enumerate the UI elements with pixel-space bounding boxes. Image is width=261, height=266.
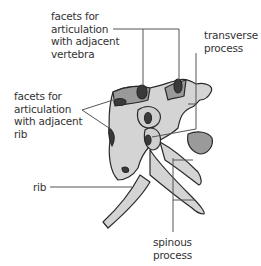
label-spinous-process: spinous process xyxy=(153,236,192,261)
label-transverse-process: transverse process xyxy=(204,29,258,54)
facet-shape xyxy=(114,99,126,106)
lower-process-shape xyxy=(188,132,213,154)
label-rib: rib xyxy=(33,181,46,194)
rib-shape xyxy=(103,175,150,228)
facet-shape xyxy=(145,113,152,124)
label-facets-rib: facets for articulation with adjacent ri… xyxy=(14,90,82,140)
facet-shape xyxy=(174,79,182,93)
facet-shape xyxy=(145,135,151,145)
facet-shape xyxy=(137,85,147,99)
label-facets-vertebra: facets for articulation with adjacent ve… xyxy=(51,10,119,60)
